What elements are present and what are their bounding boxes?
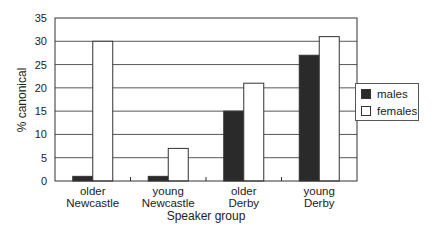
x-category-label: young xyxy=(304,185,335,197)
males-swatch-icon xyxy=(361,89,371,99)
bars xyxy=(73,37,340,181)
legend-item-males: males xyxy=(361,87,408,101)
y-axis-ticks: 05101520253035 xyxy=(35,12,47,187)
x-category-label: Newcastle xyxy=(66,197,119,209)
legend-label-males: males xyxy=(377,88,408,100)
bar-females xyxy=(244,83,264,181)
bar-males xyxy=(299,55,319,181)
bar-females xyxy=(319,37,339,181)
x-category-label: Newcastle xyxy=(142,197,195,209)
x-category-label: older xyxy=(80,185,106,197)
y-tick-label: 0 xyxy=(41,175,47,187)
x-category-label: Derby xyxy=(304,197,335,209)
y-tick-label: 30 xyxy=(35,35,47,47)
x-axis-category-labels: olderNewcastleyoungNewcastleolderDerbyyo… xyxy=(66,185,335,209)
y-tick-label: 20 xyxy=(35,82,47,94)
x-axis-title: Speaker group xyxy=(167,209,246,223)
legend-item-females: females xyxy=(361,104,417,118)
y-axis-title: % canonical xyxy=(15,68,29,133)
y-tick-label: 10 xyxy=(35,128,47,140)
y-tick-label: 25 xyxy=(35,59,47,71)
x-category-label: older xyxy=(231,185,257,197)
legend: males females xyxy=(355,83,419,121)
x-category-label: Derby xyxy=(228,197,259,209)
bar-females xyxy=(168,148,188,181)
bar-males xyxy=(224,111,244,181)
x-category-label: young xyxy=(153,185,184,197)
bar-males xyxy=(148,176,168,181)
females-swatch-icon xyxy=(361,106,371,116)
y-tick-label: 15 xyxy=(35,105,47,117)
bar-males xyxy=(73,176,93,181)
legend-label-females: females xyxy=(377,105,417,117)
bar-females xyxy=(93,41,113,181)
y-tick-label: 35 xyxy=(35,12,47,24)
y-tick-label: 5 xyxy=(41,152,47,164)
